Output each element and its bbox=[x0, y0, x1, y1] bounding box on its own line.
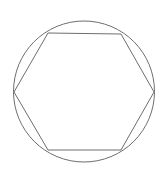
geometry-figure bbox=[0, 0, 168, 183]
geometry-canvas bbox=[0, 0, 168, 183]
figure-background bbox=[0, 0, 168, 183]
